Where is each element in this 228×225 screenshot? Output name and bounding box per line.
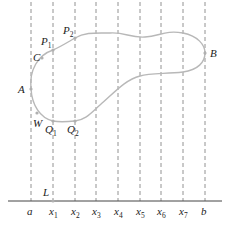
point-label-C: C (33, 51, 41, 63)
point-label-B: B (210, 47, 217, 59)
point-marker-W (35, 111, 38, 114)
point-label-L: L (42, 186, 49, 198)
tick-label-x4: x4 (113, 205, 123, 220)
point-marker-A (29, 87, 32, 90)
point-marker-L (51, 199, 54, 202)
tick-label-a: a (27, 205, 33, 217)
tick-labels: ax1x2x3x4x5x6x7b (27, 205, 207, 220)
tick-label-x1: x1 (48, 205, 58, 220)
point-label-A: A (17, 83, 25, 95)
point-marker-P1 (51, 48, 54, 51)
tick-label-x2: x2 (70, 205, 80, 220)
point-label-W: W (33, 117, 43, 129)
point-labels: ABCP1P2WQ1Q2L (17, 24, 217, 198)
point-marker-C (40, 56, 43, 59)
diagram-canvas: ax1x2x3x4x5x6x7b ABCP1P2WQ1Q2L (0, 0, 228, 225)
point-label-Q2: Q2 (67, 123, 79, 138)
tick-label-x3: x3 (91, 205, 101, 220)
tick-label-x5: x5 (135, 205, 145, 220)
tick-label-b: b (201, 205, 207, 217)
point-marker-B (203, 51, 206, 54)
point-label-Q1: Q1 (45, 123, 57, 138)
point-label-P2: P2 (62, 24, 74, 39)
point-label-P1: P1 (40, 35, 52, 50)
point-marker-P2 (73, 36, 76, 39)
tick-label-x7: x7 (178, 205, 188, 220)
tick-label-x6: x6 (156, 205, 166, 220)
